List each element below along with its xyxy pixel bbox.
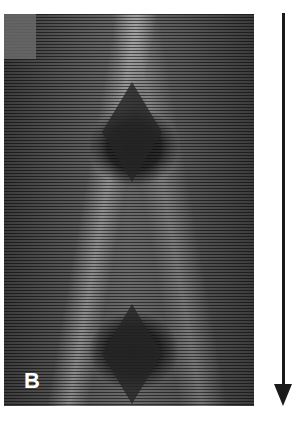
corner-patch	[4, 14, 36, 59]
dark-diamond-region-bottom	[102, 304, 162, 404]
arrow-head-icon	[274, 384, 292, 406]
panel-label: B	[24, 370, 40, 392]
dark-diamond-region-top	[102, 82, 162, 182]
microscopy-image-panel: B	[4, 14, 254, 406]
down-arrow-icon	[282, 13, 285, 388]
